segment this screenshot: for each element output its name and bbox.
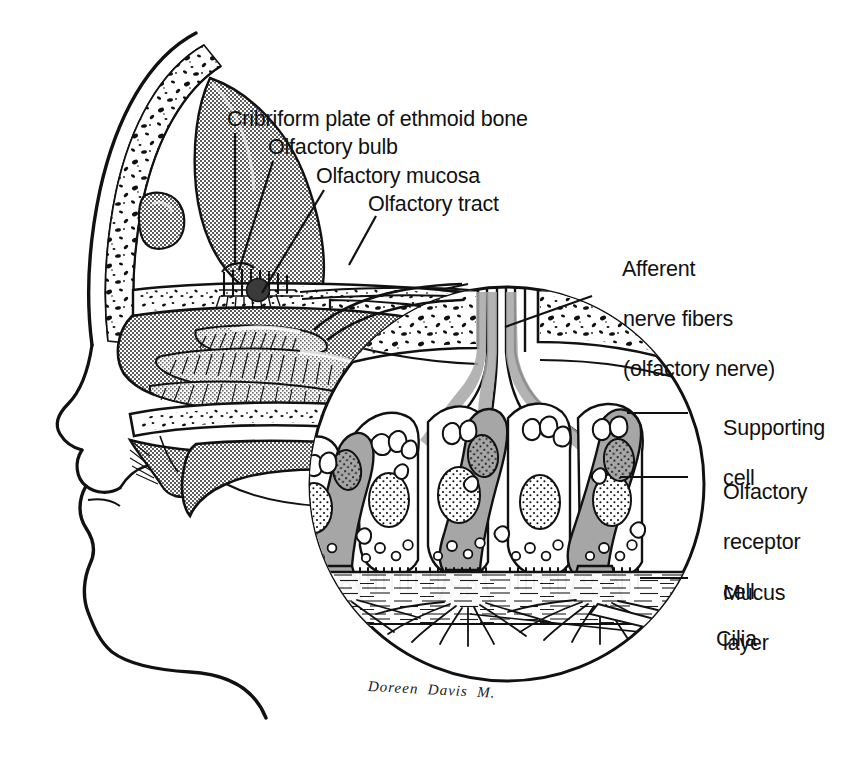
label-cilia: Cilia [716,627,757,652]
leader-olfactory-tract [349,216,376,265]
label-afferent-line2: nerve fibers [623,307,733,331]
face-profile [80,486,266,718]
label-supporting-line1: Supporting [723,416,825,440]
label-olfactory-mucosa: Olfactory mucosa [316,164,480,189]
diagram-canvas: Cribriform plate of ethmoid bone Olfacto… [0,0,864,774]
label-afferent-nerve-fibers: Afferent nerve fibers (olfactory nerve) [600,232,775,407]
label-olfactory-tract: Olfactory tract [368,192,499,217]
label-cribriform-plate: Cribriform plate of ethmoid bone [227,107,528,132]
label-receptor-line2: receptor [723,530,800,554]
label-receptor-line1: Olfactory [723,480,807,504]
label-mucus-line1: Mucus [723,581,785,605]
label-mucus-layer: Mucus layer [700,556,785,681]
lip-line [88,499,120,506]
label-afferent-line1: Afferent [622,257,695,281]
label-olfactory-bulb: Olfactory bulb [268,135,398,160]
olfactory-bulb-marker [247,279,270,302]
nose-outline [57,345,120,492]
label-afferent-line3: (olfactory nerve) [623,357,775,381]
frontal-sinus [139,193,184,249]
